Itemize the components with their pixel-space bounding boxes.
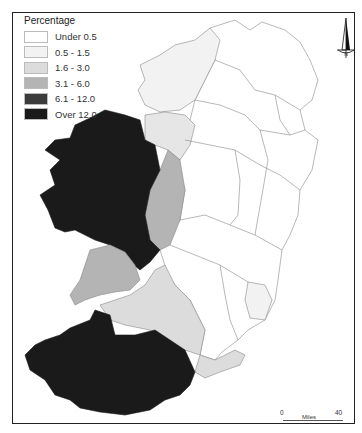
legend-swatch [24,62,48,74]
legend: Percentage Under 0.5 0.5 - 1.5 1.6 - 3.0… [24,15,97,122]
scale-bar: 0 40 Miles [280,409,346,423]
legend-item: 1.6 - 3.0 [24,60,97,76]
legend-swatch [24,46,48,58]
legend-swatch [24,93,48,105]
legend-label: Over 12.0 [55,109,97,120]
legend-label: 6.1 - 12.0 [55,93,95,104]
legend-swatch [24,31,48,43]
legend-label: 0.5 - 1.5 [55,47,90,58]
legend-swatch [24,108,48,120]
legend-swatch [24,77,48,89]
legend-item: 3.1 - 6.0 [24,76,97,92]
legend-label: 1.6 - 3.0 [55,62,90,73]
scale-start: 0 [280,409,284,416]
region-mayo-galway [40,110,160,270]
legend-label: Under 0.5 [55,31,97,42]
legend-item: 6.1 - 12.0 [24,91,97,107]
legend-item: Under 0.5 [24,29,97,45]
scale-line [283,420,343,421]
north-arrow-icon: N [335,16,357,60]
legend-item: Over 12.0 [24,107,97,123]
svg-text:N: N [344,51,348,57]
legend-title: Percentage [24,15,97,26]
scale-end: 40 [335,409,342,416]
legend-label: 3.1 - 6.0 [55,78,90,89]
legend-item: 0.5 - 1.5 [24,45,97,61]
